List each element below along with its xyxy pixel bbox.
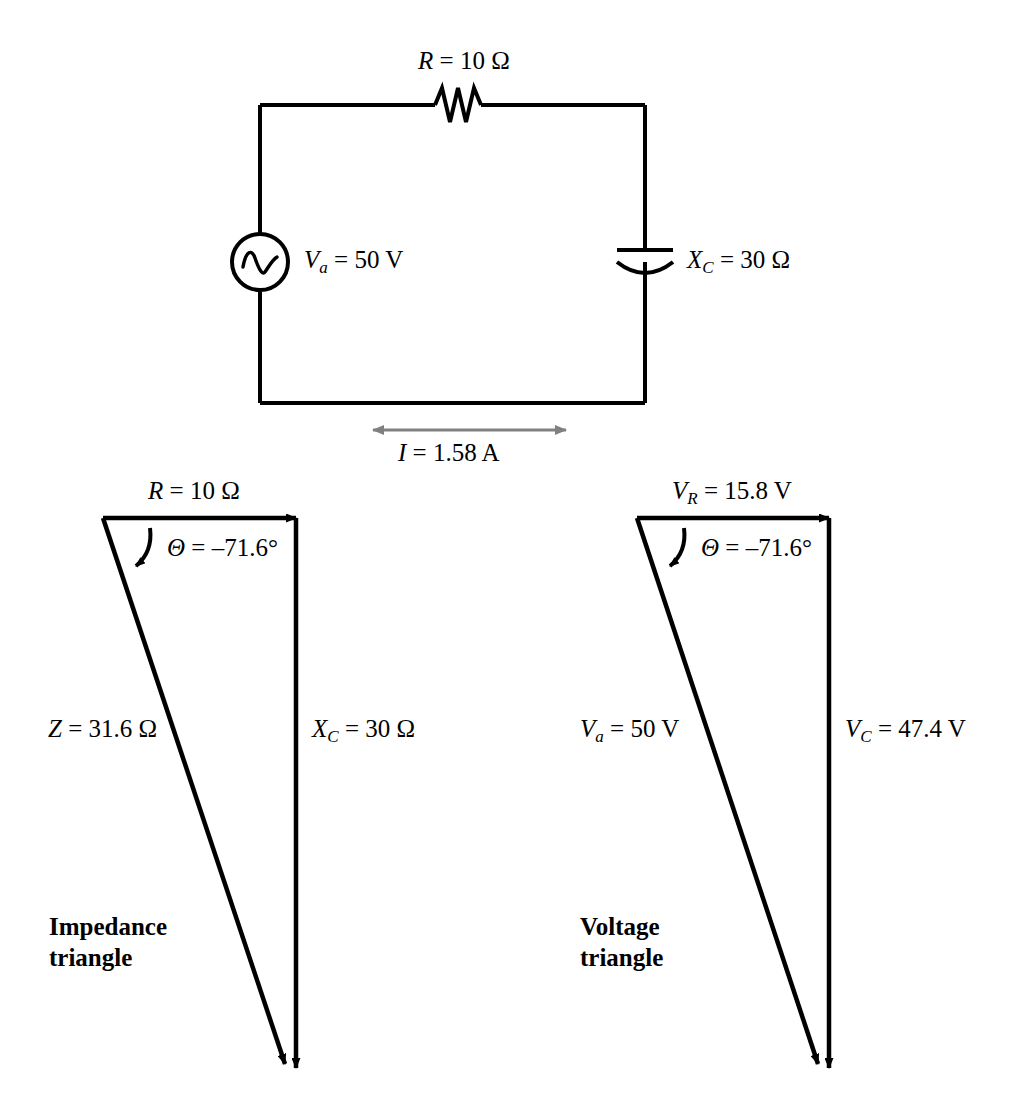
voltage-angle-rest: = –71.6° bbox=[719, 534, 812, 561]
voltage-hypotenuse-sub: a bbox=[595, 727, 604, 746]
resistor-label-var: R bbox=[418, 47, 433, 74]
impedance-opposite-var: X bbox=[312, 715, 327, 742]
voltage-angle-symbol: Θ bbox=[701, 534, 719, 561]
voltage-adjacent-rest: = 15.8 V bbox=[698, 477, 792, 504]
impedance-hypotenuse-var: Z bbox=[48, 715, 62, 742]
voltage-adjacent-sub: R bbox=[687, 489, 697, 508]
impedance-opposite-sub: C bbox=[327, 727, 338, 746]
voltage-triangle-caption: Voltage triangle bbox=[580, 912, 663, 973]
voltage-hypotenuse-arrow bbox=[637, 518, 818, 1064]
source-label-eq: = 50 V bbox=[328, 246, 403, 273]
voltage-adjacent-label: VR = 15.8 V bbox=[672, 477, 792, 505]
current-label: I = 1.58 A bbox=[398, 439, 500, 467]
impedance-adjacent-unit: Ω bbox=[221, 477, 240, 504]
voltage-angle-arc-icon bbox=[670, 528, 684, 566]
impedance-angle-rest: = –71.6° bbox=[185, 534, 278, 561]
impedance-angle-arc-icon bbox=[136, 528, 150, 566]
source-label: Va = 50 V bbox=[304, 246, 403, 274]
capacitor-label-unit: Ω bbox=[771, 246, 790, 273]
impedance-triangle-graphic bbox=[103, 518, 296, 1068]
figure-root: R = 10 Ω Va = 50 V XC = 30 Ω I = 1.58 A … bbox=[0, 0, 1019, 1120]
voltage-opposite-var: V bbox=[845, 715, 860, 742]
resistor-label-eq: = 10 bbox=[433, 47, 491, 74]
circuit-schematic bbox=[232, 88, 673, 430]
capacitor-label-var: X bbox=[687, 246, 702, 273]
impedance-opposite-rest: = 30 bbox=[339, 715, 397, 742]
resistor-label: R = 10 Ω bbox=[418, 47, 510, 75]
impedance-angle-symbol: Θ bbox=[167, 534, 185, 561]
ac-source-icon bbox=[232, 234, 288, 290]
impedance-triangle-caption: Impedance triangle bbox=[49, 912, 167, 973]
impedance-adjacent-label: R = 10 Ω bbox=[148, 477, 240, 505]
voltage-opposite-label: VC = 47.4 V bbox=[845, 715, 966, 743]
resistor-zigzag-icon bbox=[435, 88, 481, 122]
source-label-var: V bbox=[304, 246, 319, 273]
impedance-angle-label: Θ = –71.6° bbox=[167, 534, 278, 562]
impedance-adjacent-var: R bbox=[148, 477, 163, 504]
source-label-sub: a bbox=[319, 258, 328, 277]
capacitor-label-sub: C bbox=[702, 258, 713, 277]
impedance-hypotenuse-arrow bbox=[103, 518, 285, 1064]
voltage-opposite-sub: C bbox=[860, 727, 871, 746]
voltage-hypotenuse-label: Va = 50 V bbox=[580, 715, 679, 743]
impedance-adjacent-rest: = 10 bbox=[163, 477, 221, 504]
voltage-angle-label: Θ = –71.6° bbox=[701, 534, 812, 562]
voltage-triangle-graphic bbox=[637, 518, 829, 1068]
voltage-hypotenuse-rest: = 50 V bbox=[604, 715, 679, 742]
impedance-hypotenuse-label: Z = 31.6 Ω bbox=[48, 715, 157, 743]
current-label-eq: = 1.58 A bbox=[406, 439, 499, 466]
voltage-adjacent-var: V bbox=[672, 477, 687, 504]
impedance-hypotenuse-unit: Ω bbox=[139, 715, 158, 742]
capacitor-label: XC = 30 Ω bbox=[687, 246, 790, 274]
impedance-opposite-label: XC = 30 Ω bbox=[312, 715, 415, 743]
impedance-hypotenuse-rest: = 31.6 bbox=[62, 715, 139, 742]
impedance-opposite-unit: Ω bbox=[396, 715, 415, 742]
capacitor-label-eq: = 30 bbox=[714, 246, 772, 273]
resistor-label-unit: Ω bbox=[491, 47, 510, 74]
voltage-hypotenuse-var: V bbox=[580, 715, 595, 742]
voltage-opposite-rest: = 47.4 V bbox=[872, 715, 966, 742]
